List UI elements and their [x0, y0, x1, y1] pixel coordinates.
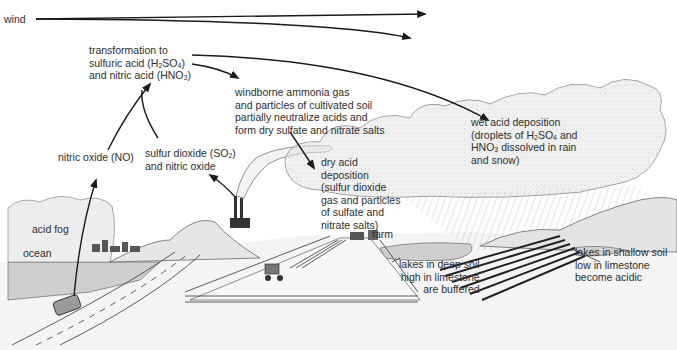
label-acid-fog: acid fog [32, 223, 69, 236]
label-transformation: transformation to sulfuric acid (H2SO4) … [89, 44, 191, 82]
arrow-so2-to-transformation [142, 90, 158, 138]
label-farm: farm [372, 228, 393, 241]
arrow-factory-to-so2 [210, 175, 236, 198]
label-wind: wind [4, 13, 26, 26]
acid-deposition-diagram: wind transformation to sulfuric acid (H2… [0, 0, 677, 350]
label-lakes-shallow-soil: lakes in shallow soillow in limestonebec… [575, 246, 667, 284]
label-lakes-deep-soil: lakes in deep soilhigh in limestoneare b… [399, 258, 480, 296]
label-sulfur-dioxide: sulfur dioxide (SO2) and nitric oxide [145, 147, 236, 172]
wind-arrow-lower [36, 19, 410, 38]
factory [230, 196, 250, 228]
label-dry-deposition: dry aciddeposition (sulfur dioxidegas an… [321, 156, 400, 231]
arrow-no-to-transformation [108, 84, 150, 150]
wind-arrow-upper [36, 14, 425, 19]
label-ammonia-neutralization: windborne ammonia gasand particles of cu… [235, 86, 384, 136]
label-nitric-oxide: nitric oxide (NO) [58, 151, 134, 164]
label-ocean: ocean [23, 247, 52, 260]
label-wet-deposition: wet acid deposition (droplets of H2SO4 a… [471, 116, 577, 166]
arrow-to-ammonia [192, 64, 238, 78]
